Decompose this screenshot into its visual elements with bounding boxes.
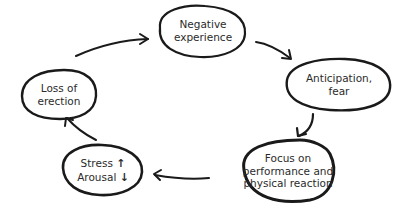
arrow-up-icon: ↑ [116, 157, 125, 170]
arrow-anticipation-to-focus [297, 114, 313, 136]
node-label-line: experience [162, 31, 244, 44]
arrow-stress-to-loss [65, 118, 96, 140]
arrow-negative-to-anticipation [256, 42, 291, 59]
node-negative-experience: Negative experience [162, 18, 244, 43]
node-stress-arousal: Stress ↑ Arousal ↓ [64, 157, 142, 184]
node-label-line: Loss of [22, 82, 96, 95]
node-label-line: fear [290, 85, 388, 98]
arrow-focus-to-stress [154, 170, 209, 180]
node-anticipation-fear: Anticipation, fear [290, 72, 388, 97]
node-label-line: Negative [162, 18, 244, 31]
node-label-line: physical reaction [240, 177, 336, 190]
node-label-line: Focus on [240, 152, 336, 165]
node-loss-of-erection: Loss of erection [22, 82, 96, 107]
node-label-line: Stress [81, 157, 113, 169]
node-label-line: Arousal [77, 171, 116, 183]
node-label-line: erection [22, 95, 96, 108]
node-label-line: Anticipation, [290, 72, 388, 85]
arrow-loss-to-negative [76, 34, 148, 56]
node-label-row-stress: Stress ↑ [64, 157, 142, 171]
arrow-down-icon: ↓ [120, 171, 129, 184]
node-label-row-arousal: Arousal ↓ [64, 171, 142, 185]
node-focus-on-performance: Focus on performance and physical reacti… [240, 152, 336, 190]
node-label-line: performance and [240, 165, 336, 178]
